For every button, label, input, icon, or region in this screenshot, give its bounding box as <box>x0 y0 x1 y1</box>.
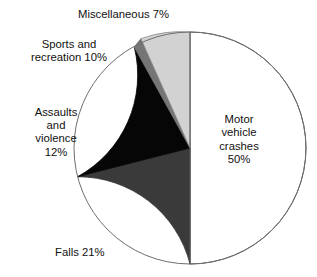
pie-chart-figure: Miscellaneous 7% Sports and recreation 1… <box>0 0 317 277</box>
slice-label-motor-vehicle-crashes: Motor vehicle crashes 50% <box>196 113 282 167</box>
slice-label-falls: Falls 21% <box>55 246 105 259</box>
slice-label-assaults-and-violence: Assaults and violence 12% <box>10 106 102 159</box>
slice-label-miscellaneous: Miscellaneous 7% <box>78 8 169 21</box>
slice-label-sports-and-recreation: Sports and recreation 10% <box>14 38 124 64</box>
